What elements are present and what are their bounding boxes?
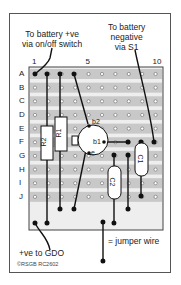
pin-e: e [91,148,95,158]
copyright: ©RSGB RC2602 [17,259,58,269]
row-label-A: A [19,69,24,79]
col-label-10: 10 [153,57,162,67]
pin-b2: b2 [92,117,100,127]
row-label-H: H [19,165,25,175]
legend-jumper: = jumper wire [108,236,159,246]
row-label-B: B [19,83,24,93]
row-label-F: F [19,137,24,147]
label-c2: C2 [107,178,117,187]
label-gdo: +ve to GDO [19,248,64,258]
row-label-I: I [19,178,21,188]
label-c1: C1 [135,155,145,164]
label-battery-positive: To battery +vevia on/off switch [22,29,82,49]
row-label-J: J [19,192,23,202]
row-label-C: C [19,96,25,106]
row-label-G: G [19,151,25,161]
transistor-tab [72,136,78,145]
row-label-D: D [19,110,25,120]
label-battery-negative: To batterynegativevia S1 [108,22,145,52]
pin-b1: b1 [93,137,101,147]
col-label-5: 5 [86,57,90,67]
row-label-E: E [19,124,24,134]
col-label-1: 1 [32,57,36,67]
label-r2: R2 [39,138,49,147]
label-r1: R1 [54,129,64,138]
